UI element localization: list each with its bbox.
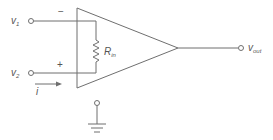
v2-label: v2 bbox=[11, 67, 20, 79]
resistor-rin-icon bbox=[93, 21, 99, 73]
rin-label: Rin bbox=[104, 46, 117, 58]
vout-terminal bbox=[239, 46, 244, 51]
amplifier-triangle bbox=[77, 8, 178, 88]
op-amp-diagram: v1 − v2 + Rin i vout bbox=[0, 0, 273, 140]
v2-terminal bbox=[29, 71, 34, 76]
v1-label: v1 bbox=[11, 15, 19, 27]
ground-terminal bbox=[95, 101, 100, 106]
vout-label: vout bbox=[248, 42, 262, 54]
arrowhead-icon bbox=[56, 82, 62, 87]
plus-sign: + bbox=[57, 59, 63, 70]
ground-icon bbox=[88, 124, 106, 132]
current-label: i bbox=[36, 86, 39, 97]
minus-sign: − bbox=[58, 6, 64, 17]
v1-terminal bbox=[29, 19, 34, 24]
